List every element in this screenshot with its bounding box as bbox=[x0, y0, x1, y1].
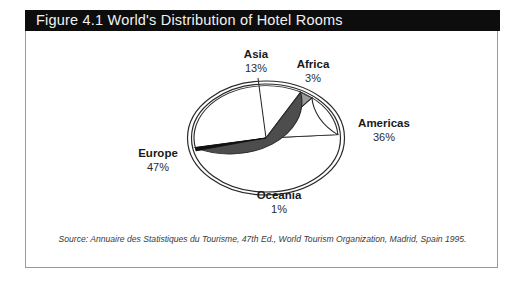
figure-body: Asia 13% Africa 3% Americas 36% Oceania … bbox=[25, 31, 498, 268]
pie-label-americas-name: Americas bbox=[341, 116, 427, 130]
pie-label-oceania-name: Oceania bbox=[241, 188, 317, 202]
pie-label-europe-name: Europe bbox=[122, 146, 194, 160]
pie-label-africa: Africa 3% bbox=[278, 57, 348, 86]
pie-label-africa-value: 3% bbox=[278, 71, 348, 86]
pie-label-africa-name: Africa bbox=[278, 57, 348, 71]
pie-label-oceania-value: 1% bbox=[241, 202, 317, 217]
figure-source-note: Source: Annuaire des Statistiques du Tou… bbox=[26, 234, 499, 244]
pie-chart: Asia 13% Africa 3% Americas 36% Oceania … bbox=[26, 31, 499, 231]
pie-label-oceania: Oceania 1% bbox=[241, 188, 317, 217]
pie-label-europe-value: 47% bbox=[122, 160, 194, 175]
figure-title-bar: Figure 4.1 World's Distribution of Hotel… bbox=[25, 10, 500, 31]
figure-title: Figure 4.1 World's Distribution of Hotel… bbox=[36, 12, 343, 28]
pie-label-americas-value: 36% bbox=[341, 130, 427, 145]
pie-label-americas: Americas 36% bbox=[341, 116, 427, 145]
figure-container: Figure 4.1 World's Distribution of Hotel… bbox=[25, 10, 500, 270]
pie-label-europe: Europe 47% bbox=[122, 146, 194, 175]
